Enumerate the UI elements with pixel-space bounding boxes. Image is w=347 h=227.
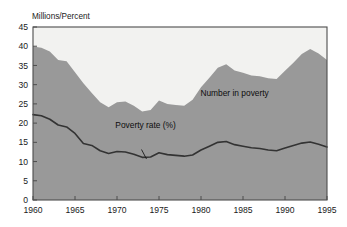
chart-canvas: 051015202530354045 196019651970197519801… [0, 0, 347, 227]
y-tick-label: 35 [18, 61, 28, 71]
y-tick-label: 40 [18, 41, 28, 51]
annotation-number-in-poverty: Number in poverty [200, 88, 269, 98]
y-tick-label: 5 [23, 176, 28, 186]
annotation-poverty-rate: Poverty rate (%) [115, 120, 176, 130]
x-tick-label: 1960 [23, 205, 42, 215]
y-tick-label: 30 [18, 80, 28, 90]
x-tick-label: 1980 [191, 205, 210, 215]
poverty-chart: 051015202530354045 196019651970197519801… [0, 0, 347, 227]
x-tick-label: 1975 [149, 205, 168, 215]
x-tick-label: 1985 [233, 205, 252, 215]
y-axis-title: Millions/Percent [32, 12, 91, 21]
x-tick-label: 1995 [317, 205, 336, 215]
x-tick-label: 1965 [65, 205, 84, 215]
x-tick-label: 1990 [275, 205, 294, 215]
y-tick-label: 45 [18, 22, 28, 32]
y-tick-label: 25 [18, 99, 28, 109]
y-tick-label: 20 [18, 118, 28, 128]
y-tick-label: 15 [18, 137, 28, 147]
x-tick-label: 1970 [107, 205, 126, 215]
y-tick-label: 10 [18, 157, 28, 167]
